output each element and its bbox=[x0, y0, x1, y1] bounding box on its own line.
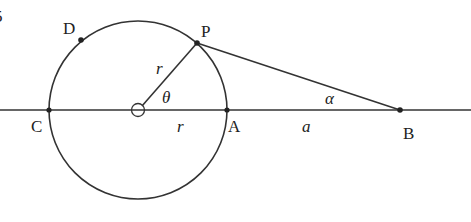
label-segment-a: a bbox=[302, 117, 311, 136]
corner-glyph: 5 bbox=[0, 7, 3, 26]
label-radius-slanted: r bbox=[156, 59, 163, 78]
segment-PB bbox=[197, 43, 400, 110]
point-A-dot bbox=[224, 107, 229, 112]
point-B-dot bbox=[397, 107, 403, 113]
point-C-dot bbox=[46, 107, 51, 112]
point-P-dot bbox=[194, 40, 200, 46]
label-radius-horizontal: r bbox=[177, 117, 184, 136]
label-C: C bbox=[31, 117, 42, 136]
label-D: D bbox=[63, 19, 75, 38]
geometry-diagram: 5 D P C A B r θ r α a bbox=[0, 0, 471, 222]
label-alpha: α bbox=[325, 89, 335, 108]
label-A: A bbox=[228, 117, 241, 136]
label-theta: θ bbox=[162, 88, 170, 107]
label-B: B bbox=[403, 124, 414, 143]
label-P: P bbox=[201, 22, 210, 41]
point-D-dot bbox=[78, 37, 84, 43]
